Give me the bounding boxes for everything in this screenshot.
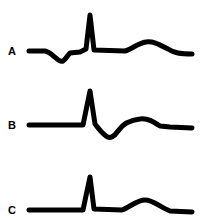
ecg-trace-c: [29, 177, 192, 212]
trace-label-b: B: [8, 120, 16, 131]
trace-label-a: A: [8, 46, 16, 57]
ecg-traces-canvas: [0, 0, 208, 219]
ecg-figure: A B C: [0, 0, 208, 219]
ecg-trace-a: [29, 15, 192, 61]
ecg-trace-b: [29, 91, 192, 137]
trace-label-c: C: [8, 205, 16, 216]
